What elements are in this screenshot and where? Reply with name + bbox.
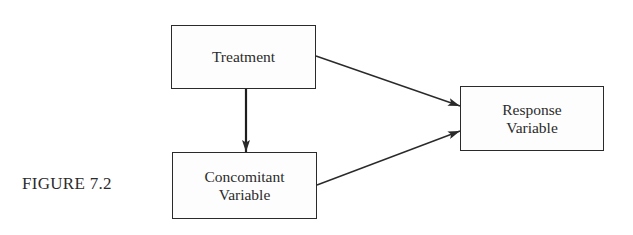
response-label-line2: Variable (506, 119, 558, 137)
concomitant-variable-node: Concomitant Variable (172, 152, 317, 219)
response-variable-node: Response Variable (460, 86, 604, 151)
arrow-concomitant-to-response (317, 131, 460, 185)
diagram-canvas: Treatment Concomitant Variable Response … (0, 0, 633, 235)
concomitant-label-line1: Concomitant (204, 168, 284, 186)
concomitant-label-line2: Variable (219, 186, 271, 204)
arrow-treatment-to-response (316, 56, 460, 106)
figure-caption: FIGURE 7.2 (22, 174, 112, 194)
response-label-line1: Response (502, 101, 561, 119)
treatment-node: Treatment (171, 25, 316, 89)
treatment-label: Treatment (212, 48, 275, 66)
